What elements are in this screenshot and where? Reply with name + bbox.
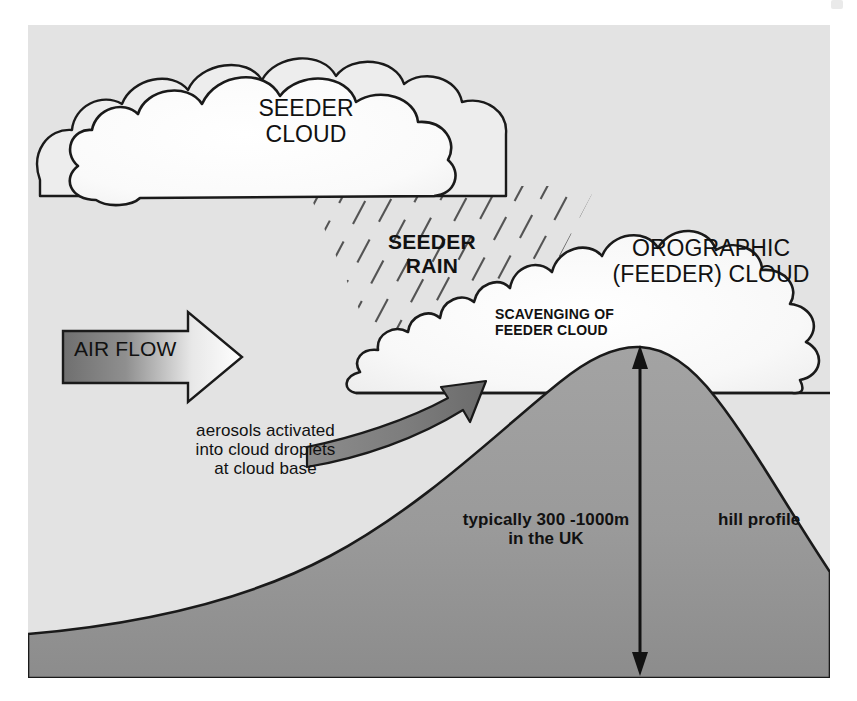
seeder-cloud-label: SEEDER CLOUD — [246, 96, 366, 148]
scavenging-label: SCAVENGING OF FEEDER CLOUD — [495, 307, 614, 338]
hill-height-label: typically 300 -1000m in the UK — [446, 510, 646, 548]
aerosols-annotation-label: aerosols activated into cloud droplets a… — [178, 421, 353, 478]
hill-profile-label: hill profile — [718, 510, 800, 529]
orographic-feeder-cloud-label: OROGRAPHIC (FEEDER) CLOUD — [596, 236, 826, 288]
seeder-rain-label: SEEDER RAIN — [377, 230, 487, 277]
air-flow-label: AIR FLOW — [74, 337, 176, 361]
scan-artifact-mark — [831, 0, 843, 9]
figure-canvas: SEEDER CLOUD SEEDER RAIN OROGRAPHIC (FEE… — [0, 0, 857, 701]
